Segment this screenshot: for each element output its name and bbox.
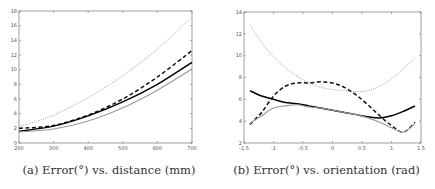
axes-frame (19, 11, 192, 143)
y-tick-label: 10 (11, 66, 17, 72)
x-tick-label: 600 (153, 145, 163, 151)
y-tick-label: 14 (236, 9, 242, 15)
x-tick-label: 200 (14, 145, 24, 151)
x-tick-label: -1.5 (239, 145, 249, 151)
plot-area: 200300400500600700024681012141618 (11, 8, 197, 151)
x-tick-label: 0 (331, 145, 334, 151)
x-tick-label: 700 (187, 145, 197, 151)
error-vs-distance-plot: 200300400500600700024681012141618 (0, 0, 218, 160)
chart-panel-distance: 200300400500600700024681012141618 (a) Er… (0, 0, 218, 189)
y-tick-label: 0 (14, 140, 17, 146)
y-tick-label: 4 (239, 118, 242, 124)
x-tick-label: 1 (390, 145, 393, 151)
y-tick-label: 4 (14, 110, 17, 116)
y-tick-label: 8 (14, 81, 17, 87)
y-tick-label: 6 (14, 96, 17, 102)
plot-area: -1.5-1-0.500.511.52468101214 (236, 9, 425, 151)
x-tick-label: 500 (118, 145, 128, 151)
y-tick-label: 12 (236, 31, 242, 37)
x-tick-label: 0.5 (358, 145, 366, 151)
caption-distance: (a) Error(°) vs. distance (mm) (0, 163, 218, 177)
x-tick-label: 400 (83, 145, 93, 151)
chart-panel-orientation: -1.5-1-0.500.511.52468101214 (b) Error(°… (218, 0, 435, 189)
x-tick-label: 1.5 (417, 145, 425, 151)
y-tick-label: 14 (11, 37, 17, 43)
y-tick-label: 8 (239, 74, 242, 80)
axes-frame (244, 12, 421, 143)
y-tick-label: 12 (11, 52, 17, 58)
caption-orientation: (b) Error(°) vs. orientation (rad) (218, 163, 435, 177)
error-vs-orientation-plot: -1.5-1-0.500.511.52468101214 (218, 0, 435, 160)
x-tick-label: -1 (271, 145, 276, 151)
x-tick-label: -0.5 (298, 145, 308, 151)
y-tick-label: 2 (239, 140, 242, 146)
y-tick-label: 18 (11, 8, 17, 14)
y-tick-label: 6 (239, 96, 242, 102)
y-tick-label: 10 (236, 52, 242, 58)
x-tick-label: 300 (49, 145, 59, 151)
y-tick-label: 2 (14, 125, 17, 131)
y-tick-label: 16 (11, 22, 17, 28)
